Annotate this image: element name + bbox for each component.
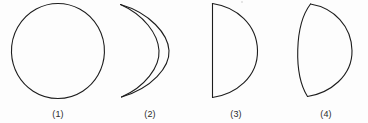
circle-icon: [8, 0, 108, 105]
shape-options-figure: (1) (2) (3) (4): [0, 0, 368, 123]
crescent-icon: [112, 0, 188, 105]
shape-option-4[interactable]: (4): [286, 0, 366, 123]
shape-option-1[interactable]: (1): [8, 0, 108, 123]
half-disc-straight-edge-icon: [198, 0, 274, 105]
shape-option-4-label: (4): [286, 109, 366, 120]
shape-option-1-label: (1): [8, 109, 108, 120]
shape-option-3[interactable]: (3): [198, 0, 274, 123]
shape-option-2[interactable]: (2): [112, 0, 188, 123]
shape-option-3-label: (3): [198, 109, 274, 120]
half-disc-curved-edge-icon: [286, 0, 366, 105]
shape-option-2-label: (2): [112, 109, 188, 120]
